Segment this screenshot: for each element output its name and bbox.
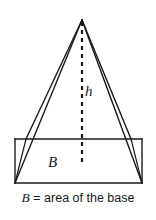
edge-apex-to-front-right xyxy=(82,20,142,183)
height-label: h xyxy=(85,84,93,99)
figure-caption: B = area of the base xyxy=(0,190,156,206)
edge-apex-to-back-left xyxy=(26,20,82,139)
hidden-base-edges xyxy=(15,139,142,183)
base-diagonal-right xyxy=(131,139,142,183)
edge-apex-to-back-right xyxy=(82,20,131,139)
base-rectangle xyxy=(15,139,142,183)
caption-text: = area of the base xyxy=(30,191,135,205)
pyramid-figure: h B B = area of the base xyxy=(0,0,156,220)
base-area-label: B xyxy=(48,155,57,170)
pyramid-drawing xyxy=(0,0,156,220)
caption-variable: B xyxy=(22,190,30,205)
lateral-edges xyxy=(15,20,142,183)
